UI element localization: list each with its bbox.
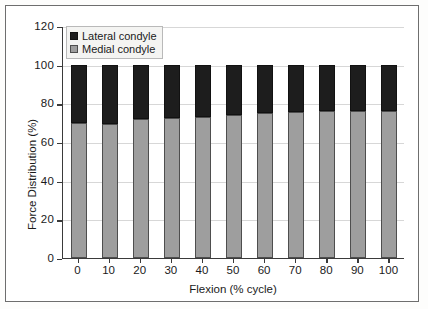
- bar-segment-lateral: [164, 65, 180, 118]
- bar-segment-medial: [164, 118, 180, 258]
- x-tick-mark: [326, 259, 327, 263]
- bar-stack: [133, 65, 149, 258]
- bar-segment-lateral: [226, 65, 242, 115]
- x-tick-mark: [78, 259, 79, 263]
- bar-segment-lateral: [71, 65, 87, 123]
- bar-segment-lateral: [257, 65, 273, 113]
- y-tick-label: 20: [20, 213, 54, 225]
- bar-segment-lateral: [133, 65, 149, 119]
- legend-label-medial: Medial condyle: [82, 43, 155, 55]
- bar-stack: [102, 65, 118, 258]
- bar-segment-medial: [257, 113, 273, 258]
- chart-figure: Force Distribution (%) 020406080100120 0…: [0, 0, 428, 309]
- y-tick-label: 60: [20, 136, 54, 148]
- bar-segment-medial: [195, 117, 211, 258]
- bar-segment-lateral: [319, 65, 335, 111]
- bar-segment-lateral: [350, 65, 366, 111]
- y-tick-label: 100: [20, 59, 54, 71]
- legend-item-lateral: Lateral condyle: [70, 29, 157, 42]
- y-tick-mark: [57, 259, 62, 260]
- bar-stack: [257, 65, 273, 258]
- chart-legend: Lateral condyle Medial condyle: [66, 26, 163, 59]
- x-tick-mark: [171, 259, 172, 263]
- bar-stack: [381, 65, 397, 258]
- bar-segment-medial: [102, 124, 118, 258]
- bar-stack: [319, 65, 335, 258]
- bar-segment-medial: [226, 115, 242, 258]
- x-tick-mark: [109, 259, 110, 263]
- bar-stack: [195, 65, 211, 258]
- plot-area: [62, 27, 404, 259]
- y-tick-label: 40: [20, 175, 54, 187]
- bar-segment-medial: [350, 111, 366, 258]
- bar-segment-lateral: [288, 65, 304, 112]
- bar-stack: [164, 65, 180, 258]
- x-tick-mark: [357, 259, 358, 263]
- y-tick-label: 80: [20, 97, 54, 109]
- bar-segment-medial: [381, 111, 397, 258]
- x-tick-mark: [295, 259, 296, 263]
- x-tick-mark: [388, 259, 389, 263]
- bar-segment-medial: [133, 119, 149, 258]
- bar-segment-medial: [71, 123, 87, 258]
- x-tick-mark: [233, 259, 234, 263]
- bar-series-layer: [63, 27, 404, 258]
- y-tick-label: 120: [20, 20, 54, 32]
- legend-item-medial: Medial condyle: [70, 42, 157, 55]
- x-axis-title: Flexion (% cycle): [62, 283, 404, 295]
- legend-label-lateral: Lateral condyle: [82, 30, 157, 42]
- y-tick-label: 0: [20, 252, 54, 264]
- x-tick-mark: [202, 259, 203, 263]
- bar-segment-lateral: [195, 65, 211, 117]
- bar-segment-lateral: [381, 65, 397, 111]
- x-tick-mark: [140, 259, 141, 263]
- bar-stack: [350, 65, 366, 258]
- bar-segment-medial: [319, 111, 335, 258]
- bar-stack: [71, 65, 87, 258]
- x-tick-mark: [264, 259, 265, 263]
- bar-stack: [226, 65, 242, 258]
- bar-segment-medial: [288, 112, 304, 258]
- bar-stack: [288, 65, 304, 258]
- black-square-icon: [70, 32, 78, 40]
- bar-segment-lateral: [102, 65, 118, 124]
- gray-square-icon: [70, 45, 78, 53]
- x-tick-label: 100: [368, 264, 408, 276]
